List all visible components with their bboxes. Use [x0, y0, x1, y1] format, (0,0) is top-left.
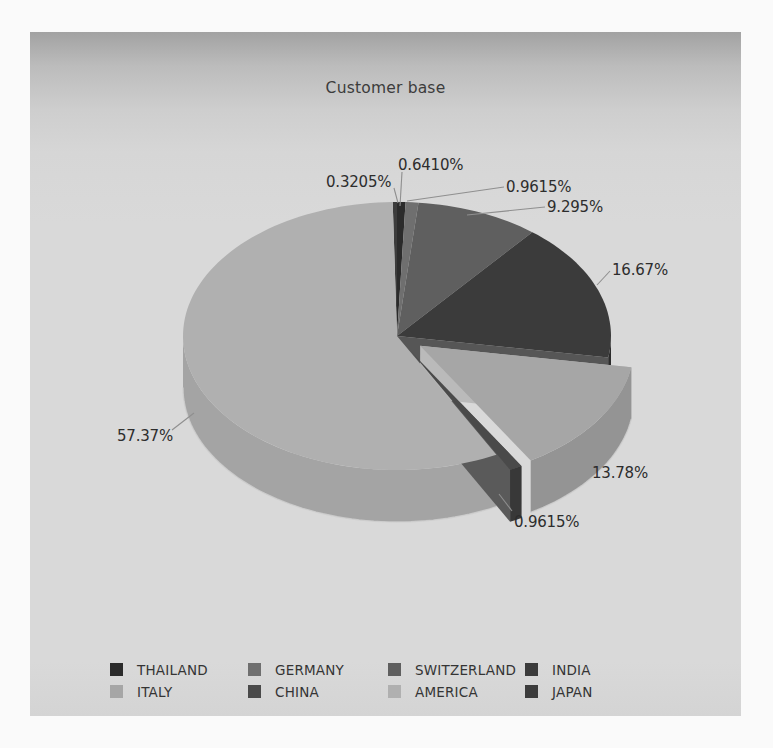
legend-item-china: CHINA [248, 684, 319, 699]
legend-item-japan: JAPAN [525, 684, 593, 699]
legend-item-italy: ITALY [110, 684, 172, 699]
pie-label-switzerland: 9.295% [547, 198, 603, 216]
legend-label-china: CHINA [275, 684, 319, 700]
pie-label-germany: 0.9615% [506, 178, 571, 196]
legend-item-switzerland: SWITZERLAND [388, 662, 516, 677]
legend-label-japan: JAPAN [552, 684, 593, 700]
legend-swatch-china [248, 685, 261, 698]
legend-item-america: AMERICA [388, 684, 478, 699]
legend-swatch-italy [110, 685, 123, 698]
legend-label-thailand: THAILAND [137, 662, 208, 678]
leader-line-switzerland [467, 207, 545, 215]
leader-line-thailand [400, 172, 402, 206]
pie-label-italy: 13.78% [592, 464, 648, 482]
legend-swatch-japan [525, 685, 538, 698]
leader-line-india [597, 271, 610, 285]
scanned-page: { "chart_data": { "type": "pie", "title"… [0, 0, 773, 748]
legend-label-germany: GERMANY [275, 662, 344, 678]
legend-swatch-switzerland [388, 663, 401, 676]
legend-label-america: AMERICA [415, 684, 478, 700]
legend-swatch-germany [248, 663, 261, 676]
pie-chart [0, 0, 773, 748]
leader-line-germany [407, 187, 504, 201]
legend-label-india: INDIA [552, 662, 591, 678]
legend-swatch-thailand [110, 663, 123, 676]
legend-item-thailand: THAILAND [110, 662, 208, 677]
pie-label-america: 57.37% [117, 427, 173, 445]
pie-label-china: 0.9615% [514, 513, 579, 531]
legend-label-italy: ITALY [137, 684, 172, 700]
legend-item-germany: GERMANY [248, 662, 344, 677]
pie-label-thailand: 0.6410% [398, 156, 463, 174]
legend-label-switzerland: SWITZERLAND [415, 662, 516, 678]
leader-line-japan [394, 188, 398, 203]
pie-label-india: 16.67% [612, 261, 668, 279]
pie-label-japan: 0.3205% [326, 173, 391, 191]
legend-item-india: INDIA [525, 662, 591, 677]
legend-swatch-america [388, 685, 401, 698]
legend-swatch-india [525, 663, 538, 676]
